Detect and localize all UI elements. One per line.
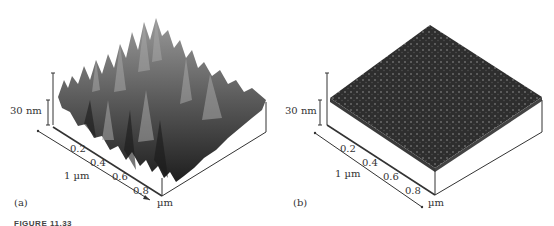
afm-surface-smooth bbox=[277, 0, 554, 215]
lateral-scale-label: 1 µm bbox=[335, 168, 361, 179]
tick-label: 0.4 bbox=[90, 157, 106, 168]
panel-label: (a) bbox=[14, 197, 28, 208]
lateral-scale-label: 1 µm bbox=[64, 170, 90, 181]
axis-unit-label: µm bbox=[428, 197, 444, 208]
tick-label: 0.8 bbox=[405, 185, 421, 196]
figure-caption: FIGURE 11.33 bbox=[14, 219, 72, 226]
panel-label: (b) bbox=[293, 197, 307, 208]
z-scale-label: 30 nm bbox=[285, 105, 317, 116]
tick-label: 0.4 bbox=[362, 157, 378, 168]
tick-label: 0.2 bbox=[70, 143, 86, 154]
tick-label: 0.6 bbox=[112, 171, 128, 182]
panel-b: 30 nm 0.2 0.4 0.6 0.8 1 µm µm (b) bbox=[277, 0, 554, 215]
tick-label: 0.6 bbox=[383, 171, 399, 182]
tick-label: 0.8 bbox=[133, 185, 149, 196]
axis-unit-label: µm bbox=[157, 197, 173, 208]
tick-label: 0.2 bbox=[340, 143, 356, 154]
z-scale-label: 30 nm bbox=[10, 105, 42, 116]
panel-a: 30 nm 0.2 0.4 0.6 0.8 1 µm µm (a) bbox=[0, 0, 277, 215]
